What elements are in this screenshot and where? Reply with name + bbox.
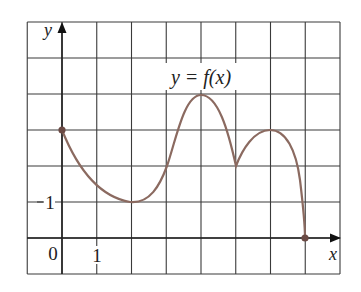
x-axis-arrow-icon [330,234,341,243]
x-axis-label: x [328,244,337,264]
end-endpoint [301,234,308,241]
function-label: y = f(x) [169,66,231,89]
origin-label: 0 [48,243,58,264]
y-axis-arrow-icon [58,22,67,33]
y-axis-label: y [42,20,52,40]
grid [27,22,340,274]
start-endpoint [58,126,65,133]
axes [27,22,341,274]
x-tick-label-1: 1 [92,245,102,266]
function-graph: y = f(x) y x 0 1 1 [0,0,361,292]
y-tick-label-1: 1 [45,192,55,213]
